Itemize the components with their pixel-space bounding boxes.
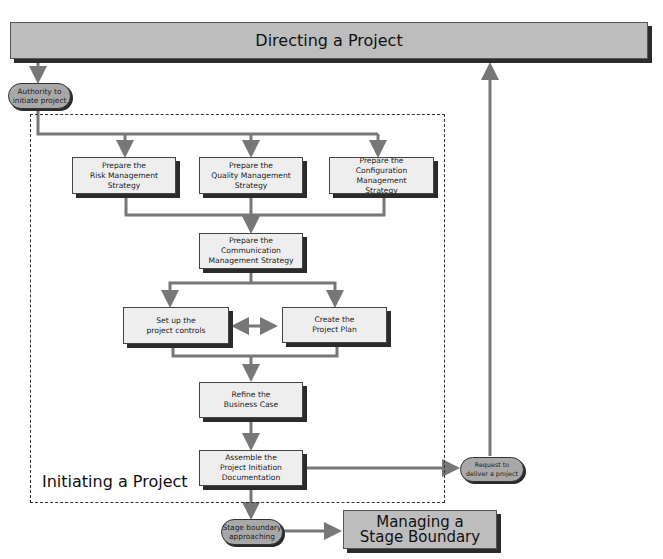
activity-pid-label: Assemble the Project Initiation Document…	[220, 453, 282, 483]
managing-label: Managing a Stage Boundary	[360, 515, 480, 545]
activity-quality[interactable]: Prepare the Quality Management Strategy	[199, 157, 303, 194]
activity-configuration-label: Prepare the Configuration Management Str…	[332, 156, 431, 196]
activity-communication-label: Prepare the Communication Management Str…	[209, 236, 294, 266]
activity-risk[interactable]: Prepare the Risk Management Strategy	[72, 157, 176, 194]
frame-label: Initiating a Project	[42, 472, 188, 491]
trigger-stage-boundary-label: Stage boundary approaching	[223, 523, 282, 542]
activity-business-case[interactable]: Refine the Business Case	[199, 382, 303, 418]
trigger-stage-boundary[interactable]: Stage boundary approaching	[221, 519, 283, 545]
activity-pid[interactable]: Assemble the Project Initiation Document…	[199, 450, 303, 486]
activity-risk-label: Prepare the Risk Management Strategy	[90, 161, 158, 191]
trigger-authority-label: Authority to initiate project	[13, 87, 67, 106]
activity-communication[interactable]: Prepare the Communication Management Str…	[199, 233, 303, 269]
managing-a-stage-boundary[interactable]: Managing a Stage Boundary	[343, 510, 497, 549]
activity-plan-label: Create the Project Plan	[312, 315, 357, 335]
directing-a-project[interactable]: Directing a Project	[10, 22, 648, 59]
activity-business-case-label: Refine the Business Case	[224, 390, 278, 410]
activity-plan[interactable]: Create the Project Plan	[282, 307, 387, 343]
activity-controls-label: Set up the project controls	[146, 316, 205, 336]
trigger-authority[interactable]: Authority to initiate project	[8, 83, 71, 109]
activity-quality-label: Prepare the Quality Management Strategy	[211, 161, 291, 191]
directing-label: Directing a Project	[255, 31, 402, 50]
trigger-request[interactable]: Request to deliver a project	[460, 457, 524, 482]
activity-configuration[interactable]: Prepare the Configuration Management Str…	[329, 157, 434, 194]
trigger-request-label: Request to deliver a project	[466, 461, 518, 478]
activity-controls[interactable]: Set up the project controls	[123, 307, 229, 344]
